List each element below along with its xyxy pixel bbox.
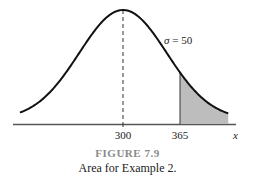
tick-label-365: 365: [172, 129, 189, 141]
sigma-label: σ = 50: [164, 34, 192, 46]
figure-number: FIGURE 7.9: [0, 147, 255, 159]
figure-caption: Area for Example 2.: [0, 161, 255, 176]
sigma-value: = 50: [172, 34, 192, 46]
x-axis-label: x: [233, 129, 238, 141]
sigma-symbol: σ: [164, 34, 169, 46]
shaded-tail-area: [180, 72, 228, 124]
tick-label-300: 300: [115, 129, 132, 141]
